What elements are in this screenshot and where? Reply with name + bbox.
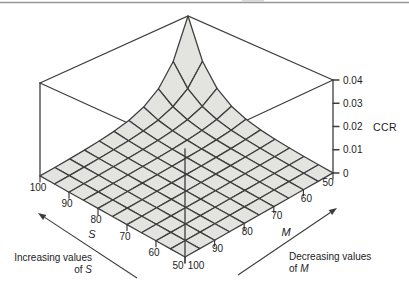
z-axis: 00.010.020.030.04 (333, 75, 363, 179)
m-tick-label: 100 (188, 260, 205, 271)
z-tick-label: 0.03 (343, 98, 363, 109)
z-tick-label: 0.02 (343, 121, 363, 132)
s-annotation: Increasing valuesof S (14, 252, 92, 275)
s-tick-label: 50 (172, 260, 184, 271)
m-axis-title: M (281, 226, 291, 238)
s-tick-label: 70 (119, 231, 131, 242)
m-decrease-arrow-head (329, 208, 337, 215)
s-annotation-line1: Increasing values (14, 252, 92, 263)
s-annotation-line2: of S (74, 264, 92, 275)
s-tick-label: 90 (61, 198, 73, 209)
m-tick-label: 50 (322, 177, 334, 188)
s-tick-label: 100 (30, 182, 47, 193)
ccr-3d-surface-chart: 00.010.020.030.0410090807060505060708090… (0, 0, 409, 291)
m-annotation: Decreasing valuesof M (289, 251, 371, 274)
s-tick-label: 60 (148, 247, 160, 258)
s-increase-arrow-head (38, 213, 46, 220)
m-annotation-line1: Decreasing values (289, 251, 371, 262)
z-axis-title: CCR (373, 121, 397, 133)
z-tick-label: 0 (343, 168, 349, 179)
m-tick-label: 80 (242, 226, 254, 237)
m-tick-label: 90 (212, 243, 224, 254)
s-axis-title: S (88, 228, 96, 240)
page-header-remnant (242, 0, 264, 2)
m-annotation-line2: of M (289, 263, 309, 274)
m-tick-label: 60 (301, 193, 313, 204)
z-tick-label: 0.04 (343, 75, 363, 86)
z-tick-label: 0.01 (343, 144, 363, 155)
m-tick-label: 70 (271, 210, 283, 221)
s-tick-label: 80 (90, 214, 102, 225)
chart-render-root: 00.010.020.030.0410090807060505060708090… (0, 0, 409, 278)
figure-page: 00.010.020.030.0410090807060505060708090… (0, 0, 409, 291)
surface-mesh (40, 16, 333, 257)
m-decrease-arrow-line (238, 212, 330, 275)
